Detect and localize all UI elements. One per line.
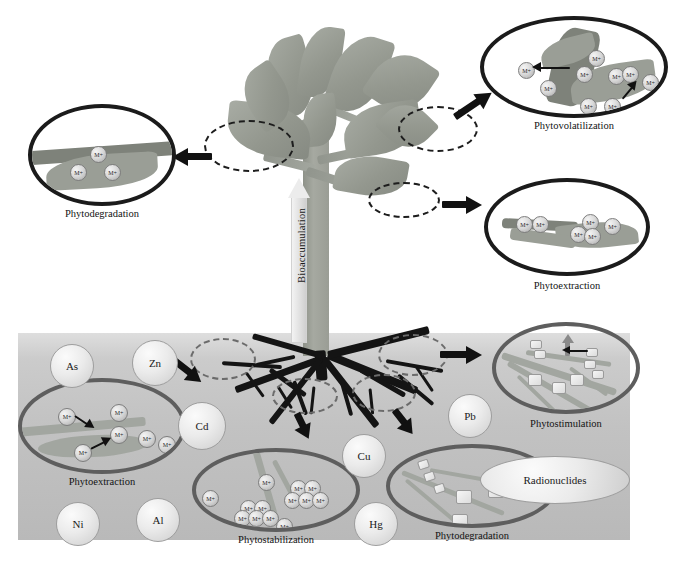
figure-canvas: Bioaccumulation bbox=[0, 0, 678, 571]
metal-ion: M+ bbox=[532, 216, 549, 233]
contaminant-block bbox=[456, 490, 472, 504]
metal-ion: M+ bbox=[540, 80, 557, 97]
selection-oval-leaf-lower-right[interactable] bbox=[368, 182, 440, 218]
callout-label-phytodegradation-soil: Phytodegradation bbox=[386, 530, 558, 541]
contaminant-block bbox=[423, 471, 436, 483]
metal-ion: M+ bbox=[312, 492, 329, 509]
callout-phytostabilization[interactable]: M+ M+ M+ M+ M+ M+ M+ M+ M+ M+ M+ M+ M+ bbox=[192, 448, 360, 532]
contaminant-hg[interactable]: Hg bbox=[354, 502, 398, 546]
callout-label-phytostabilization: Phytostabilization bbox=[192, 534, 360, 545]
contaminant-block bbox=[452, 514, 468, 528]
metal-ion: M+ bbox=[202, 490, 219, 507]
metal-ion: M+ bbox=[584, 228, 601, 245]
arrow-to-phytostimulation bbox=[440, 346, 482, 364]
metal-ion: M+ bbox=[90, 146, 107, 163]
contaminant-ni[interactable]: Ni bbox=[56, 502, 100, 546]
contaminant-pb[interactable]: Pb bbox=[448, 394, 492, 438]
metal-ion: M+ bbox=[516, 216, 533, 233]
arrow-to-phytodegradation-aerial bbox=[172, 148, 212, 166]
callout-phytodegradation-aerial[interactable]: M+ M+ M+ bbox=[28, 104, 176, 206]
contaminant-cu[interactable]: Cu bbox=[342, 434, 386, 478]
callout-label-phytoextraction-aerial: Phytoextraction bbox=[484, 280, 650, 291]
metal-ion: M+ bbox=[580, 98, 597, 115]
selection-oval-leaf-left[interactable] bbox=[204, 120, 294, 172]
contaminant-radionuclides[interactable]: Radionuclides bbox=[480, 456, 630, 504]
metal-ion: M+ bbox=[576, 66, 593, 83]
stimulation-left-arrow bbox=[562, 346, 588, 356]
metal-ion: M+ bbox=[104, 164, 121, 181]
contaminant-al[interactable]: Al bbox=[136, 498, 180, 542]
metal-ion: M+ bbox=[138, 430, 156, 448]
contaminant-block bbox=[534, 350, 546, 359]
contaminant-block bbox=[530, 340, 542, 349]
metal-ion: M+ bbox=[276, 518, 293, 532]
metal-ion: M+ bbox=[110, 404, 128, 422]
selection-oval-root-right[interactable] bbox=[352, 374, 416, 412]
callout-label-phytoextraction-root: Phytoextraction bbox=[18, 476, 186, 487]
callout-label-phytodegradation-aerial: Phytodegradation bbox=[28, 208, 176, 219]
metal-ion: M+ bbox=[158, 436, 176, 454]
contaminant-block bbox=[592, 370, 604, 379]
contaminant-block bbox=[433, 483, 446, 495]
callout-phytovolatilization[interactable]: M+ M+ M+ M+ M+ M+ M+ M+ M+ bbox=[480, 16, 668, 118]
callout-phytostimulation[interactable] bbox=[492, 322, 640, 414]
bioaccumulation-arrow: Bioaccumulation bbox=[288, 178, 310, 343]
arrow-to-phytoextraction-aerial bbox=[442, 196, 482, 214]
contaminant-block bbox=[570, 374, 584, 386]
bioaccumulation-label: Bioaccumulation bbox=[296, 181, 307, 311]
callout-phytoextraction-root[interactable]: M+ M+ M+ M+ M+ M+ bbox=[18, 378, 186, 474]
contaminant-block bbox=[552, 382, 566, 394]
metal-ion: M+ bbox=[588, 50, 605, 67]
volatilization-flow-arrow bbox=[532, 62, 570, 74]
metal-ion: M+ bbox=[604, 218, 621, 235]
selection-oval-root-center[interactable] bbox=[272, 378, 338, 414]
selection-oval-root-far-right[interactable] bbox=[378, 334, 448, 376]
plant-illustration bbox=[205, 8, 475, 348]
contaminant-block bbox=[528, 374, 542, 386]
metal-ion: M+ bbox=[70, 164, 87, 181]
callout-phytoextraction-aerial[interactable]: M+ M+ M+ M+ M+ M+ bbox=[484, 178, 650, 276]
contaminant-block bbox=[584, 360, 596, 369]
contaminant-block bbox=[417, 459, 430, 471]
callout-label-phytovolatilization: Phytovolatilization bbox=[480, 120, 668, 131]
uptake-arrow bbox=[70, 410, 101, 438]
contaminant-zn[interactable]: Zn bbox=[132, 340, 178, 386]
metal-ion: M+ bbox=[258, 474, 275, 491]
contaminant-as[interactable]: As bbox=[50, 344, 94, 388]
callout-label-phytostimulation: Phytostimulation bbox=[492, 418, 640, 429]
metal-ion: M+ bbox=[604, 98, 621, 115]
contaminant-cd[interactable]: Cd bbox=[178, 402, 226, 450]
